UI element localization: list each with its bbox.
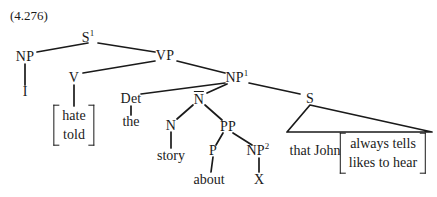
brace-alternative: hate: [62, 106, 85, 125]
terminal-about: about: [193, 173, 224, 187]
node-n-bar: N: [194, 91, 204, 107]
brace-alternative: told: [63, 125, 85, 144]
tree-edge-s1-np: [37, 43, 88, 52]
node-label: V: [69, 70, 79, 85]
tree-edge-pp-p: [216, 133, 223, 145]
syntax-tree-figure: (4.276) S1 NP VP V NP1 Det N S N PP P NP…: [0, 0, 437, 197]
brace-right-icon: [89, 105, 95, 146]
node-superscript: 1: [90, 28, 95, 38]
brace-set-relative-alternation: always tellslikes to hear: [340, 133, 426, 174]
brace-alternative: always tells: [350, 134, 416, 153]
node-np2: NP2: [247, 144, 270, 158]
tree-edge-vp-np1: [177, 61, 225, 73]
tree-edge-vp-v: [83, 61, 155, 73]
terminal-x: X: [254, 173, 264, 187]
node-s1: S1: [82, 31, 95, 45]
tree-edge-nbar-pp: [205, 105, 222, 120]
terminal-the: the: [122, 115, 139, 129]
tree-edge-np1-det: [141, 83, 225, 94]
node-vp: VP: [156, 49, 174, 63]
node-pp: PP: [220, 120, 236, 134]
node-label: S: [306, 91, 314, 106]
node-label: PP: [220, 119, 236, 134]
terminal-that-john: that John: [290, 144, 341, 158]
node-label: N: [166, 118, 176, 133]
node-superscript: 1: [244, 68, 249, 78]
node-label: VP: [156, 48, 174, 63]
brace-right-icon: [420, 133, 426, 174]
node-label: N: [194, 91, 204, 107]
tree-edge-p-about: [211, 157, 213, 172]
node-label: Det: [121, 91, 142, 106]
tree-edge-s1-vp: [98, 43, 155, 52]
node-p: P: [209, 144, 217, 158]
triangle-abbreviated-subtree: [287, 105, 432, 132]
brace-set-verb-alternation: hatetold: [53, 105, 94, 146]
terminal-story: story: [157, 149, 185, 163]
node-superscript: 2: [265, 141, 270, 151]
node-det: Det: [121, 92, 142, 106]
tree-edge-np1-s: [249, 83, 300, 94]
node-label: S: [82, 30, 90, 45]
node-label: NP: [247, 143, 265, 158]
node-v: V: [69, 71, 79, 85]
node-label: NP: [226, 70, 244, 85]
node-np1: NP1: [226, 71, 249, 85]
tree-edge-nbar-n: [177, 105, 193, 119]
node-s-relative: S: [306, 92, 314, 106]
node-label: NP: [16, 49, 34, 64]
brace-alternative: likes to hear: [349, 153, 417, 172]
node-np-subject: NP: [16, 50, 34, 64]
terminal-i: I: [23, 85, 28, 99]
node-n: N: [166, 119, 176, 133]
node-label: P: [209, 143, 217, 158]
